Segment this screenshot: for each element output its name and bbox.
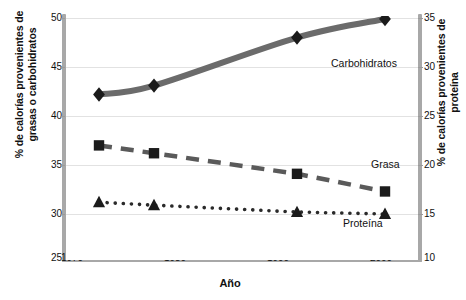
tickmark-right-30: [418, 67, 423, 68]
tickmark-left-50: [60, 18, 65, 19]
tickmark-right-15: [418, 214, 423, 215]
chart-container: % de calorías provenientes de grasas o c…: [0, 0, 466, 300]
y-left-tick-45: 45: [40, 61, 62, 72]
y-right-tick-20: 20: [424, 159, 446, 170]
y-right-tick-25: 25: [424, 110, 446, 121]
tickmark-left-30: [60, 214, 65, 215]
grasa-markers: [94, 140, 390, 196]
y-left-tick-35: 35: [40, 159, 62, 170]
proteina-markers: [93, 196, 391, 219]
data-point-carbohidratos-1999: [379, 16, 391, 26]
tickmark-right-25: [418, 116, 423, 117]
data-point-grasa-1991: [292, 169, 302, 179]
y-right-tick-35: 35: [424, 12, 446, 23]
y-axis-right-spine: [418, 14, 422, 262]
data-point-carbohidratos-1973: [93, 87, 105, 101]
y-right-tick-30: 30: [424, 61, 446, 72]
series-label-carbohidratos: Carbohidratos: [331, 57, 397, 69]
y-axis-left-title: % de calorías provenientes de grasas o c…: [13, 5, 38, 165]
y-right-tick-10: 10: [424, 252, 446, 263]
series-label-proteina: Proteína: [343, 217, 383, 229]
series-label-grasa: Grasa: [371, 158, 400, 170]
data-point-proteina-1978: [148, 199, 160, 210]
y-left-tick-50: 50: [40, 12, 62, 23]
y-right-tick-15: 15: [424, 208, 446, 219]
data-point-carbohidratos-1978: [148, 78, 160, 92]
data-point-grasa-1973: [94, 140, 104, 150]
tickmark-right-20: [418, 165, 423, 166]
data-point-proteina-1973: [93, 196, 105, 207]
data-point-grasa-1999: [380, 186, 390, 196]
y-left-tick-30: 30: [40, 208, 62, 219]
tickmark-left-45: [60, 67, 65, 68]
tickmark-right-35: [418, 18, 423, 19]
proteina-line: [99, 202, 385, 214]
x-axis-title: Año: [150, 277, 310, 290]
grasa-line: [99, 145, 385, 191]
tickmark-left-35: [60, 165, 65, 166]
data-point-carbohidratos-1991: [291, 30, 303, 44]
y-left-tick-40: 40: [40, 110, 62, 121]
y-axis-right-title: % de calorías provenientes de proteína: [435, 13, 460, 173]
tickmark-left-40: [60, 116, 65, 117]
data-point-grasa-1978: [149, 148, 159, 158]
